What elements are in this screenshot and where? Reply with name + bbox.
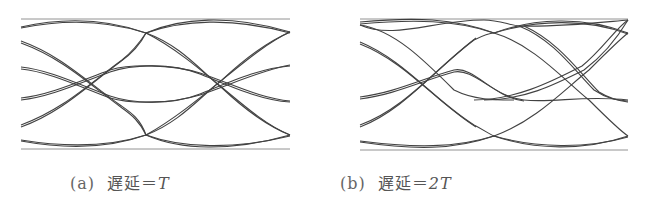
caption-b-math: 2T	[429, 174, 452, 193]
caption-a-math: T	[158, 174, 170, 193]
eye-diagram-a	[0, 0, 324, 165]
caption-b-text: 遅延＝	[378, 174, 429, 193]
caption-a-text: 遅延＝	[107, 174, 158, 193]
caption-a: (a)遅延＝T	[70, 170, 170, 194]
caption-b-letter: (b)	[340, 174, 366, 193]
panel-a	[0, 0, 324, 165]
eye-diagram-b	[324, 0, 648, 165]
caption-b: (b)遅延＝2T	[340, 170, 452, 194]
eye-traces	[360, 19, 628, 147]
panel-b	[324, 0, 648, 165]
eye-traces	[21, 20, 290, 147]
caption-a-letter: (a)	[70, 174, 95, 193]
